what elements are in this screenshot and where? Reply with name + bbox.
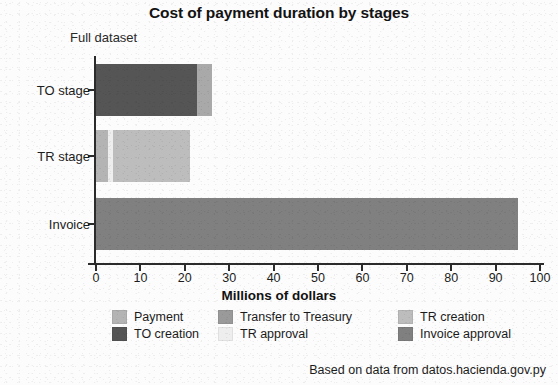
chart-subtitle: Full dataset: [70, 30, 137, 45]
legend-swatch-icon: [218, 327, 233, 341]
x-axis-tick-label: 30: [222, 271, 236, 285]
bar-group: [96, 130, 190, 182]
legend-label: Transfer to Treasury: [240, 310, 352, 324]
legend-label: TO creation: [134, 327, 199, 341]
x-axis-tick-label: 60: [355, 271, 369, 285]
x-axis-tick-label: 80: [444, 271, 458, 285]
x-axis-tick-label: 70: [400, 271, 414, 285]
legend-label: TR approval: [240, 327, 308, 341]
x-axis-tick-label: 10: [133, 271, 147, 285]
x-axis-tick-label: 0: [93, 271, 100, 285]
legend-swatch-icon: [398, 310, 413, 324]
bar-segment: [96, 198, 518, 250]
legend-label: Invoice approval: [420, 327, 511, 341]
source-attribution: Based on data from datos.hacienda.gov.py: [309, 363, 546, 377]
x-axis-tick-label: 20: [178, 271, 192, 285]
x-axis-tick-label: 90: [489, 271, 503, 285]
x-axis-tick-label: 40: [267, 271, 281, 285]
bar-segment: [96, 64, 197, 116]
legend-label: Payment: [134, 310, 183, 324]
bar-segment: [96, 130, 108, 182]
legend-item[interactable]: Invoice approval: [398, 327, 511, 341]
legend-label: TR creation: [420, 310, 485, 324]
plot-area: [96, 58, 540, 262]
legend-item[interactable]: TO creation: [112, 327, 199, 341]
legend-swatch-icon: [398, 327, 413, 341]
chart-title: Cost of payment duration by stages: [0, 4, 558, 22]
y-axis-tick-label: TR stage: [37, 149, 90, 164]
chart-legend: PaymentTransfer to TreasuryTR creationTO…: [112, 310, 532, 344]
bar-group: [96, 198, 518, 250]
x-axis-tick-label: 100: [530, 271, 551, 285]
y-axis-tick-label: TO stage: [37, 83, 90, 98]
x-axis-line: [88, 263, 544, 265]
legend-item[interactable]: Transfer to Treasury: [218, 310, 352, 324]
y-axis-tick-label: Invoice: [49, 217, 90, 232]
chart-figure: Cost of payment duration by stages Full …: [0, 0, 558, 385]
legend-item[interactable]: TR approval: [218, 327, 308, 341]
bar-segment: [113, 130, 190, 182]
x-axis-tick-label: 50: [311, 271, 325, 285]
x-axis-title: Millions of dollars: [0, 288, 558, 303]
legend-swatch-icon: [112, 327, 127, 341]
legend-swatch-icon: [112, 310, 127, 324]
bar-segment: [197, 64, 212, 116]
legend-row: PaymentTransfer to TreasuryTR creation: [112, 310, 532, 327]
bar-group: [96, 64, 212, 116]
legend-item[interactable]: TR creation: [398, 310, 485, 324]
legend-swatch-icon: [218, 310, 233, 324]
legend-row: TO creationTR approvalInvoice approval: [112, 327, 532, 344]
legend-item[interactable]: Payment: [112, 310, 183, 324]
